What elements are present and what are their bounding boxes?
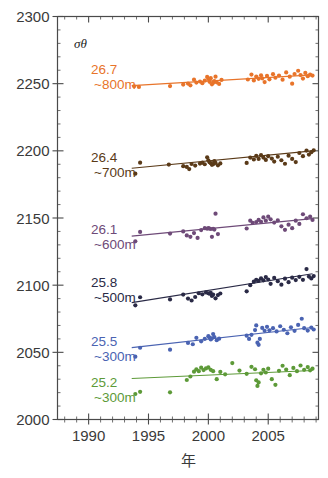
data-point — [294, 219, 298, 223]
data-point — [273, 76, 277, 80]
data-point — [301, 212, 305, 216]
data-point — [297, 222, 301, 226]
data-point — [295, 369, 299, 373]
y-tick-label: 2200 — [16, 142, 49, 159]
data-point — [265, 74, 269, 78]
data-point — [265, 325, 269, 329]
data-point — [310, 74, 314, 78]
data-point — [269, 217, 273, 221]
data-point — [279, 283, 283, 287]
x-tick-label: 1990 — [72, 427, 105, 444]
data-point — [276, 279, 280, 283]
data-point — [168, 348, 172, 352]
data-point — [284, 367, 288, 371]
data-point — [218, 161, 222, 165]
data-point — [280, 78, 284, 82]
data-point — [138, 161, 142, 165]
data-point — [253, 328, 257, 332]
data-point — [216, 232, 220, 236]
data-point — [264, 158, 268, 162]
data-point — [251, 221, 255, 225]
data-point — [276, 155, 280, 159]
data-point — [289, 325, 293, 329]
data-point — [290, 226, 294, 230]
data-point — [263, 329, 267, 333]
data-point — [272, 276, 276, 280]
data-point — [188, 83, 192, 87]
y-tick-label: 2300 — [16, 8, 49, 25]
data-point — [218, 291, 222, 295]
data-point — [312, 327, 316, 331]
data-point — [138, 346, 142, 350]
data-point — [194, 80, 198, 84]
data-point — [312, 274, 316, 278]
data-point — [280, 364, 284, 368]
x-axis-title: 年 — [181, 452, 196, 469]
data-point — [271, 326, 275, 330]
data-point — [248, 283, 252, 287]
data-point — [312, 148, 316, 152]
data-point — [279, 158, 283, 162]
data-point — [274, 329, 278, 333]
data-point — [300, 317, 304, 321]
data-point — [181, 164, 185, 168]
data-point — [301, 278, 305, 282]
data-point — [217, 337, 221, 341]
data-point — [197, 291, 201, 295]
data-point — [301, 154, 305, 158]
data-point — [191, 342, 195, 346]
data-point — [286, 280, 290, 284]
data-point — [254, 323, 258, 327]
data-point — [285, 331, 289, 335]
series-sigma-label: 25.8 — [91, 275, 117, 290]
data-point — [230, 361, 234, 365]
data-point — [304, 148, 308, 152]
data-point — [138, 230, 142, 234]
data-point — [210, 235, 214, 239]
data-point — [297, 151, 301, 155]
series-depth-label: ~300m — [94, 390, 136, 405]
data-point — [252, 157, 256, 161]
data-point — [186, 341, 190, 345]
data-point — [302, 368, 306, 372]
series-depth-label: ~300m — [94, 349, 136, 364]
y-tick-label: 2000 — [16, 411, 49, 428]
series-sigma-label: 25.5 — [91, 334, 117, 349]
data-point — [257, 343, 261, 347]
data-point — [277, 369, 281, 373]
data-point — [215, 377, 219, 381]
data-point — [245, 161, 249, 165]
data-point — [266, 367, 270, 371]
data-point — [181, 229, 185, 233]
data-point — [247, 337, 251, 341]
data-point — [138, 390, 142, 394]
data-point — [286, 223, 290, 227]
data-point — [271, 72, 275, 76]
data-point — [266, 277, 270, 281]
data-point — [267, 328, 271, 332]
data-point — [137, 85, 141, 89]
data-point — [294, 160, 298, 164]
data-point — [203, 162, 207, 166]
data-point — [223, 372, 227, 376]
series-sigma-label: 26.7 — [91, 62, 117, 77]
x-tick-label: 2000 — [192, 427, 225, 444]
data-point — [258, 337, 262, 341]
data-point — [257, 157, 261, 161]
data-point — [253, 367, 257, 371]
data-point — [193, 295, 197, 299]
data-point — [186, 297, 190, 301]
data-point — [269, 282, 273, 286]
data-point — [290, 276, 294, 280]
data-point — [267, 77, 271, 81]
data-point — [276, 218, 280, 222]
data-point — [168, 84, 172, 88]
data-point — [290, 157, 294, 161]
data-point — [197, 369, 201, 373]
x-tick-label: 2005 — [252, 427, 285, 444]
data-point — [168, 297, 172, 301]
data-point — [266, 154, 270, 158]
data-point — [188, 235, 192, 239]
data-point — [296, 323, 300, 327]
data-point — [302, 326, 306, 330]
